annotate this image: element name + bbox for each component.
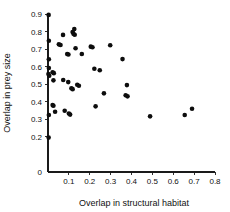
data-point bbox=[93, 104, 98, 109]
data-point bbox=[46, 13, 51, 18]
x-tick-label: 0.3 bbox=[105, 177, 117, 186]
y-tick-label: 0.2 bbox=[31, 133, 43, 142]
data-point bbox=[62, 108, 67, 113]
data-point bbox=[108, 43, 113, 48]
y-axis-ticks: 00.20.30.40.50.60.70.80.9 bbox=[31, 10, 48, 177]
data-point bbox=[58, 43, 63, 48]
data-point bbox=[73, 46, 78, 51]
x-tick-label: 0.5 bbox=[147, 177, 159, 186]
x-tick-label: 0.7 bbox=[189, 177, 201, 186]
y-tick-label: 0.5 bbox=[31, 80, 43, 89]
data-point bbox=[97, 68, 102, 73]
y-axis-title: Overlap in prey size bbox=[2, 53, 12, 133]
data-point bbox=[47, 57, 52, 62]
data-point bbox=[190, 107, 195, 112]
data-point bbox=[66, 52, 71, 57]
x-tick-label: 0.8 bbox=[209, 177, 221, 186]
data-point bbox=[72, 27, 77, 32]
data-point bbox=[47, 113, 52, 118]
data-point bbox=[61, 78, 66, 83]
data-point bbox=[148, 114, 153, 119]
plot-canvas: 00.20.30.40.50.60.70.80.9 0.10.20.30.40.… bbox=[0, 0, 230, 212]
data-point bbox=[120, 57, 125, 62]
x-tick-label: 0.6 bbox=[168, 177, 180, 186]
x-axis-title: Overlap in structural habitat bbox=[79, 198, 190, 208]
data-point bbox=[77, 84, 82, 89]
y-tick-label: 0.9 bbox=[31, 10, 43, 19]
data-point bbox=[61, 33, 66, 38]
data-point bbox=[53, 109, 58, 114]
data-point bbox=[80, 52, 85, 57]
data-point bbox=[47, 66, 52, 71]
data-point bbox=[182, 113, 187, 118]
data-point bbox=[46, 135, 51, 140]
data-point bbox=[51, 78, 56, 83]
x-axis-ticks: 0.10.20.30.40.50.60.70.8 bbox=[63, 172, 221, 186]
data-point bbox=[52, 71, 57, 76]
data-point bbox=[72, 32, 77, 37]
y-tick-label: 0.6 bbox=[31, 63, 43, 72]
y-tick-label: 0.7 bbox=[31, 45, 43, 54]
data-point bbox=[125, 94, 130, 99]
y-tick-label: 0.8 bbox=[31, 28, 43, 37]
y-tick-label: 0.3 bbox=[31, 115, 43, 124]
data-point bbox=[90, 45, 95, 50]
x-tick-label: 0.1 bbox=[63, 177, 75, 186]
y-tick-label: 0.4 bbox=[31, 98, 43, 107]
data-point bbox=[92, 66, 97, 71]
data-point bbox=[102, 91, 107, 96]
data-point bbox=[68, 112, 73, 117]
x-tick-label: 0.2 bbox=[84, 177, 96, 186]
x-tick-label: 0.4 bbox=[126, 177, 138, 186]
y-tick-label: 0 bbox=[38, 168, 43, 177]
data-point bbox=[70, 87, 75, 92]
data-point bbox=[47, 38, 52, 43]
scatter-plot-figure: 00.20.30.40.50.60.70.80.9 0.10.20.30.40.… bbox=[0, 0, 230, 212]
data-point bbox=[125, 83, 130, 88]
data-point bbox=[66, 80, 71, 85]
data-point bbox=[51, 104, 56, 109]
data-point bbox=[47, 74, 52, 79]
data-points-group bbox=[46, 13, 194, 140]
